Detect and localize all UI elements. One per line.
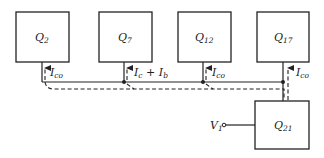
svg-text:V1: V1 xyxy=(210,119,223,133)
current-label-q7: Ic + Ib xyxy=(133,66,168,80)
junction-dot xyxy=(201,80,205,84)
junction-dot xyxy=(281,80,285,84)
current-label-q17: Ico xyxy=(295,66,310,80)
block-q7: Q7 xyxy=(99,12,152,62)
input-v1: V1 xyxy=(210,119,255,133)
bus-wires xyxy=(42,62,285,101)
current-label-q12: Ico xyxy=(211,66,226,80)
junction-dot xyxy=(122,80,126,84)
block-q2: Q2 xyxy=(16,12,69,62)
block-q17: Q17 xyxy=(257,12,309,62)
leakage-return-path xyxy=(45,82,284,100)
circuit-diagram: Q2 Q7 Q12 Q17 Q21 Ico Ic xyxy=(0,0,324,158)
input-terminal xyxy=(222,123,226,127)
current-label-q2: Ico xyxy=(49,66,64,80)
block-q12: Q12 xyxy=(178,12,231,62)
block-q21: Q21 xyxy=(255,101,309,149)
